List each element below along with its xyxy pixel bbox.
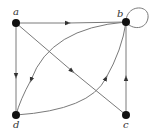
edge-b-b-loop bbox=[126, 8, 148, 28]
node-c bbox=[122, 111, 130, 119]
graph-canvas: a b c d bbox=[0, 0, 150, 139]
label-a: a bbox=[13, 6, 19, 17]
label-c: c bbox=[123, 119, 129, 130]
node-a bbox=[12, 19, 20, 27]
edge-a-c bbox=[16, 23, 72, 71]
label-d: d bbox=[13, 119, 19, 130]
edge-b-d bbox=[31, 22, 126, 80]
label-b: b bbox=[117, 8, 123, 19]
node-d bbox=[12, 111, 20, 119]
graph-diagram: a b c d bbox=[0, 0, 150, 139]
node-b bbox=[122, 18, 130, 26]
